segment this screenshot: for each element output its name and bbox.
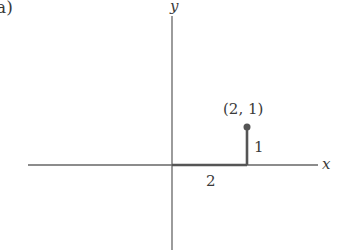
coordinate-diagram: a) x y 2 1 (2, 1) xyxy=(0,0,338,250)
y-axis-label: y xyxy=(169,0,179,15)
horizontal-segment-label: 2 xyxy=(206,172,216,190)
vertical-segment-label: 1 xyxy=(254,138,264,156)
x-axis-label: x xyxy=(322,155,331,173)
point-marker xyxy=(244,124,251,131)
panel-label: a) xyxy=(0,0,13,17)
point-label: (2, 1) xyxy=(223,100,263,118)
